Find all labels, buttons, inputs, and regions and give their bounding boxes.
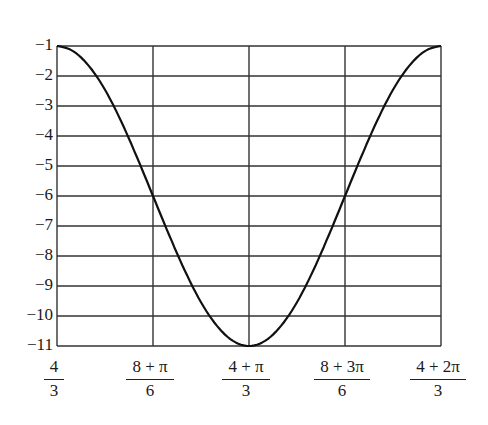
y-tick-label: −3 — [35, 96, 53, 113]
x-tick-denominator: 3 — [14, 380, 94, 402]
y-tick-label: −11 — [27, 336, 53, 353]
x-tick-label: 8 + π6 — [110, 357, 190, 402]
x-tick-denominator: 3 — [206, 380, 286, 402]
x-tick-numerator: 8 + π — [126, 357, 173, 380]
y-tick-label: −7 — [35, 216, 53, 233]
x-tick-numerator: 4 — [44, 357, 65, 380]
x-tick-label: 4 + π3 — [206, 357, 286, 402]
y-tick-label: −10 — [26, 306, 53, 323]
y-tick-label: −2 — [35, 66, 53, 83]
x-tick-numerator: 4 + π — [222, 357, 269, 380]
x-tick-label: 43 — [14, 357, 94, 402]
y-tick-label: −1 — [35, 36, 53, 53]
x-tick-label: 8 + 3π6 — [302, 357, 382, 402]
x-tick-label: 4 + 2π3 — [398, 357, 478, 402]
x-tick-denominator: 6 — [110, 380, 190, 402]
y-tick-label: −4 — [35, 126, 53, 143]
x-tick-numerator: 8 + 3π — [314, 357, 370, 380]
y-tick-label: −9 — [35, 276, 53, 293]
y-tick-label: −8 — [35, 246, 53, 263]
y-tick-label: −5 — [35, 156, 53, 173]
grid-lines — [57, 46, 441, 346]
x-tick-denominator: 6 — [302, 380, 382, 402]
x-tick-numerator: 4 + 2π — [410, 357, 466, 380]
x-tick-denominator: 3 — [398, 380, 478, 402]
y-tick-label: −6 — [35, 186, 53, 203]
